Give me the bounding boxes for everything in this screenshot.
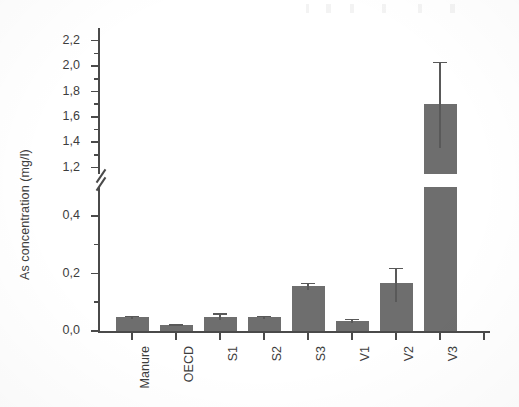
y-tick-major: 2,0 <box>91 65 98 67</box>
x-axis-label-oecd: OECD <box>182 346 196 382</box>
error-bar-line <box>439 62 441 148</box>
scan-artifact <box>300 4 490 13</box>
y-tick-label: 2,2 <box>63 33 80 47</box>
y-tick-major: 1,4 <box>91 141 98 143</box>
y-tick-minor <box>94 103 98 105</box>
error-bar-cap <box>301 283 315 285</box>
error-bar-cap <box>389 268 403 270</box>
x-axis-label-v3: V3 <box>446 346 460 361</box>
x-axis-label-s2: S2 <box>270 346 284 361</box>
x-axis-label-s1: S1 <box>226 346 240 361</box>
y-tick-label: 0,4 <box>63 208 80 222</box>
y-tick-minor <box>94 244 98 246</box>
y-tick-major: 0,2 <box>91 273 98 275</box>
y-tick-label: 1,8 <box>63 84 80 98</box>
x-tick <box>351 333 353 340</box>
y-tick-minor <box>94 301 98 303</box>
x-tick <box>263 333 265 340</box>
y-tick-minor <box>94 53 98 55</box>
x-axis-label-v2: V2 <box>402 346 416 361</box>
y-tick-major: 0,0 <box>91 330 98 332</box>
y-tick-minor <box>94 129 98 131</box>
y-tick-minor <box>94 78 98 80</box>
y-tick-label: 0,0 <box>63 323 80 337</box>
x-axis-label-v1: V1 <box>358 346 372 361</box>
bar-chart-figure: As concentration (mg/l) 0,00,20,41,21,41… <box>0 0 519 407</box>
y-tick-major: 1,8 <box>91 91 98 93</box>
y-tick-label: 0,2 <box>63 266 80 280</box>
y-axis-spine-lower <box>98 187 100 333</box>
x-axis-baseline <box>98 331 490 333</box>
error-bar-cap <box>257 316 271 318</box>
y-tick-label: 2,0 <box>63 58 80 72</box>
y-tick-label: 1,2 <box>63 160 80 174</box>
x-axis-label-manure: Manure <box>138 346 152 388</box>
x-axis-label-s3: S3 <box>314 346 328 361</box>
y-tick-major: 2,2 <box>91 40 98 42</box>
bar <box>116 317 149 331</box>
x-tick <box>219 333 221 340</box>
error-bar-line <box>395 268 397 303</box>
x-tick <box>131 333 133 340</box>
error-bar-cap <box>345 319 359 321</box>
x-tick <box>175 333 177 340</box>
y-tick-minor <box>94 154 98 156</box>
error-bar-cap <box>433 62 447 64</box>
y-tick-major: 1,6 <box>91 116 98 118</box>
y-axis-title: As concentration (mg/l) <box>18 80 32 280</box>
error-bar-cap <box>125 316 139 318</box>
bar <box>248 317 281 331</box>
x-tick <box>395 333 397 340</box>
error-bar-cap <box>213 313 227 315</box>
y-tick-label: 1,4 <box>63 134 80 148</box>
x-tick-end <box>483 333 485 340</box>
y-tick-major: 1,2 <box>91 167 98 169</box>
plot-area: 0,00,20,41,21,41,61,82,02,2 ManureOECDS1… <box>98 28 490 333</box>
y-tick-label: 1,6 <box>63 109 80 123</box>
x-tick <box>439 333 441 340</box>
bar <box>292 286 325 331</box>
error-bar-cap <box>169 324 183 326</box>
y-tick-major: 0,4 <box>91 215 98 217</box>
y-axis-spine-upper <box>98 28 100 174</box>
x-tick <box>307 333 309 340</box>
bar-lower-segment <box>424 187 457 331</box>
